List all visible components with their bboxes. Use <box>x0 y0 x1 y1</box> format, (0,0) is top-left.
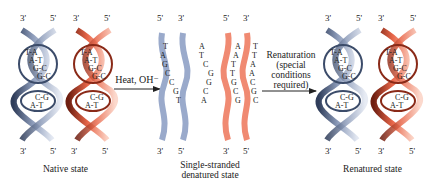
end-label: 3' <box>73 13 79 23</box>
base: G <box>235 97 241 105</box>
base: T <box>231 61 236 69</box>
denatured-label-line1: Single-stranded <box>170 160 250 170</box>
base: A <box>235 43 241 51</box>
diagram-graphics <box>0 0 431 185</box>
end-label: 5' <box>102 146 108 156</box>
base: C <box>233 88 238 96</box>
native-state-label: Native state <box>38 164 93 174</box>
renaturation-line4: required) <box>260 80 322 90</box>
base-pair: G-C <box>342 73 356 81</box>
base-pair: A-T <box>390 102 403 110</box>
base: C <box>203 61 208 69</box>
renatured-red-helix <box>374 30 421 140</box>
base: A <box>250 61 256 69</box>
denatured-label-line2: denatured state <box>170 170 250 180</box>
base: A <box>160 52 166 60</box>
end-label: 3' <box>20 13 26 23</box>
end-label: 3' <box>325 146 331 156</box>
heat-arrow-label: Heat, OH⁻ <box>114 75 160 85</box>
base: A <box>199 43 205 51</box>
base: T <box>230 70 235 78</box>
renatured-state-label: Renatured state <box>335 164 410 174</box>
end-label: 5' <box>355 146 361 156</box>
end-label: 5' <box>50 13 56 23</box>
end-label: 3' <box>378 13 384 23</box>
end-label: 5' <box>178 146 184 156</box>
renaturation-line1: Renaturation <box>260 50 322 60</box>
base: G <box>208 70 214 78</box>
end-label: 3' <box>178 13 184 23</box>
base: G <box>251 88 257 96</box>
end-label: 3' <box>157 146 163 156</box>
base: T <box>199 52 204 60</box>
base-pair: A-T <box>335 102 348 110</box>
base: T <box>252 52 257 60</box>
end-label: 5' <box>409 146 415 156</box>
end-label: 3' <box>243 13 249 23</box>
base: C <box>253 97 258 105</box>
base: A <box>233 52 239 60</box>
end-label: 3' <box>20 146 26 156</box>
end-label: 5' <box>50 146 56 156</box>
base: T <box>176 97 181 105</box>
native-blue-helix <box>14 30 61 140</box>
end-label: 5' <box>223 13 229 23</box>
base: A <box>249 70 255 78</box>
end-label: 3' <box>378 146 384 156</box>
end-label: 3' <box>325 13 331 23</box>
renatured-blue-helix <box>319 30 366 140</box>
base: C <box>250 79 255 87</box>
end-label: 5' <box>243 146 249 156</box>
end-label: 5' <box>356 13 362 23</box>
base-pair: A-T <box>30 102 43 110</box>
end-label: 5' <box>410 13 416 23</box>
base: C <box>169 79 174 87</box>
renaturation-line2: (special <box>260 60 322 70</box>
native-red-helix <box>69 30 116 140</box>
base: T <box>163 43 168 51</box>
base: G <box>231 79 237 87</box>
base: C <box>203 88 208 96</box>
base: C <box>165 70 170 78</box>
end-label: 5' <box>104 13 110 23</box>
base: A <box>201 97 207 105</box>
base: G <box>162 61 168 69</box>
base-pair: G-C <box>397 73 411 81</box>
base: T <box>253 43 258 51</box>
end-label: 3' <box>223 146 229 156</box>
base-pair: G-C <box>37 73 51 81</box>
base-pair: A-T <box>85 102 98 110</box>
end-label: 3' <box>71 146 77 156</box>
base-pair: G-C <box>92 73 106 81</box>
end-label: 5' <box>157 13 163 23</box>
renaturation-line3: conditions <box>260 70 322 80</box>
base: G <box>173 88 179 96</box>
base: G <box>206 79 212 87</box>
